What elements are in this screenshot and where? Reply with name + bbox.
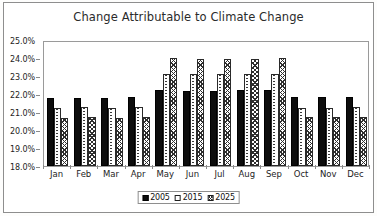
y-axis-tick-mark [36,113,40,114]
x-axis-tick-label: May [156,169,174,179]
bar-2025-oct [306,117,313,166]
x-axis-tick-label: Oct [294,169,309,179]
bar-2015-feb [81,107,88,166]
legend-label: 2025 [215,193,235,202]
x-axis-tick-mark [97,165,98,169]
y-axis-tick-mark [36,149,40,150]
legend-item-2005: 2005 [142,193,170,202]
y-axis-tick-label: 24.0% [10,55,35,64]
y-axis-tick-label: 18.0% [10,163,35,172]
bar-2015-mar [108,108,115,167]
x-axis-tick-label: Mar [103,169,119,179]
x-axis-tick-label: Jun [186,169,199,179]
x-axis-tick-mark [179,165,180,169]
x-axis-tick-label: Feb [76,169,91,179]
x-axis-tick-label: Apr [131,169,146,179]
bar-2015-apr [135,107,142,166]
legend-label: 2015 [183,193,203,202]
bar-2025-apr [143,117,150,166]
x-axis-tick-label: Sep [266,169,282,179]
bar-2015-sep [271,74,278,166]
legend-swatch-icon-2015 [175,195,181,201]
x-axis-tick-mark [342,165,343,169]
y-axis-tick-label: 25.0% [10,37,35,46]
x-axis: JanFebMarAprMayJunJulAugSepOctNovDec [43,169,369,185]
x-axis-tick-mark [369,165,370,169]
bar-2015-dec [353,107,360,166]
bar-2025-jul [224,59,231,166]
bar-2005-mar [101,98,108,166]
legend-item-2015: 2015 [175,193,203,202]
y-axis-tick-label: 23.0% [10,73,35,82]
plot-area [43,41,369,167]
x-axis-tick-label: Jul [214,169,224,179]
bars-layer [44,42,368,166]
chart-title: Change Attributable to Climate Change [0,10,377,24]
legend-swatch-icon-2025 [207,195,213,201]
x-axis-tick-mark [233,165,234,169]
bar-2025-feb [88,117,95,166]
bar-2005-feb [74,98,81,166]
y-axis: 25.0%24.0%23.0%22.0%21.0%20.0%19.0%18.0% [0,41,40,167]
bar-2025-mar [116,118,123,166]
bar-2025-dec [360,117,367,166]
legend-swatch-icon-2005 [142,195,148,201]
bar-2015-nov [326,108,333,167]
bar-2025-jun [197,59,204,166]
bar-2015-jan [54,108,61,167]
bar-2005-jan [47,98,54,166]
x-axis-tick-mark [315,165,316,169]
bar-2005-dec [346,97,353,166]
legend-label: 2005 [150,193,170,202]
bar-2005-may [155,90,162,166]
x-axis-tick-mark [288,165,289,169]
bar-2025-nov [333,117,340,166]
bar-2005-aug [237,90,244,166]
chart-container: Change Attributable to Climate Change 25… [0,0,377,216]
bar-2005-sep [264,90,271,166]
bar-2005-nov [318,97,325,166]
bar-2025-may [170,58,177,166]
y-axis-tick-label: 20.0% [10,127,35,136]
x-axis-tick-label: Aug [238,169,255,179]
y-axis-tick-label: 19.0% [10,145,35,154]
x-axis-tick-label: Dec [347,169,363,179]
bar-2005-apr [128,97,135,166]
bar-2005-jul [210,91,217,166]
bar-2015-jul [217,74,224,166]
y-axis-tick-mark [36,59,40,60]
bar-2015-may [163,74,170,166]
y-axis-tick-mark [36,95,40,96]
x-axis-tick-mark [206,165,207,169]
bar-2015-oct [298,108,305,167]
bar-2005-jun [183,91,190,166]
chart-legend: 200520152025 [137,191,240,204]
bar-2015-jun [190,74,197,166]
legend-item-2025: 2025 [207,193,235,202]
y-axis-tick-label: 21.0% [10,109,35,118]
y-axis-tick-mark [36,131,40,132]
bar-2005-oct [291,97,298,166]
bar-2025-sep [279,58,286,166]
x-axis-tick-mark [70,165,71,169]
y-axis-tick-label: 22.0% [10,91,35,100]
x-axis-tick-mark [43,165,44,169]
bar-2025-jan [61,118,68,166]
y-axis-tick-mark [36,167,40,168]
y-axis-tick-mark [36,77,40,78]
bar-2015-aug [244,74,251,166]
x-axis-tick-label: Nov [320,169,337,179]
bar-2025-aug [251,59,258,166]
x-axis-tick-label: Jan [50,169,63,179]
x-axis-tick-mark [125,165,126,169]
x-axis-tick-mark [152,165,153,169]
x-axis-tick-mark [260,165,261,169]
